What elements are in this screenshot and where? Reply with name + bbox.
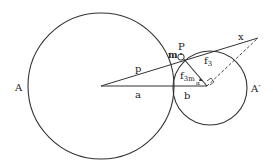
label-m: m <box>168 50 178 60</box>
label-x: x <box>238 31 244 42</box>
label-b: b <box>184 90 190 101</box>
label-a: a <box>135 89 141 100</box>
right-angle-icon <box>207 78 214 85</box>
label-A-prime: A′ <box>250 83 261 94</box>
label-f3m: f3m <box>180 70 195 83</box>
point-P-icon <box>180 53 182 55</box>
label-p: p <box>135 63 141 74</box>
label-P: P <box>178 41 185 52</box>
dashed-line <box>207 38 258 86</box>
label-alpha: α <box>196 79 200 86</box>
label-f3: f3 <box>204 55 212 68</box>
label-A: A <box>14 82 23 93</box>
diagram-canvas: A A′ a b p x m P f3 f3m α <box>0 0 273 167</box>
